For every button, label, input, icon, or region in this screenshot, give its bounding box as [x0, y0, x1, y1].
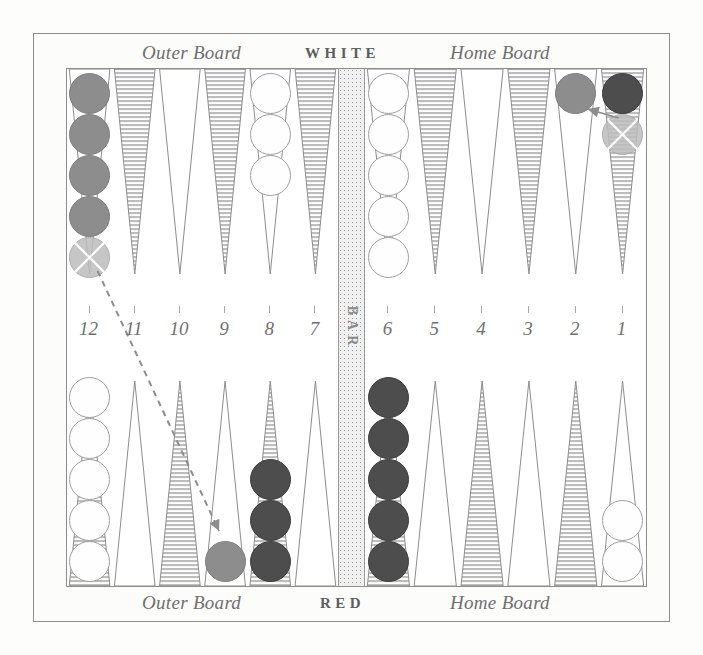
point-tick-5 [434, 306, 435, 313]
point-number-6: 6 [372, 318, 402, 340]
point-numbers-strip: 121110987654321 [66, 318, 647, 344]
point-tick-1 [622, 306, 623, 313]
point-tick-2 [575, 306, 576, 313]
point-number-9: 9 [209, 318, 239, 340]
point-tick-7 [314, 306, 315, 313]
point-tick-8 [269, 306, 270, 313]
top-player-label-white: WHITE [305, 45, 380, 62]
point-number-12: 12 [74, 318, 104, 340]
point-number-11: 11 [119, 318, 149, 340]
point-tick-4 [481, 306, 482, 313]
bottom-outer-board-label: Outer Board [142, 592, 241, 614]
top-home-board-label: Home Board [450, 42, 550, 64]
point-tick-6 [387, 306, 388, 313]
point-tick-9 [224, 306, 225, 313]
backgammon-board-figure: Outer Board WHITE Home Board Outer Board… [0, 0, 703, 655]
point-number-4: 4 [466, 318, 496, 340]
point-number-10: 10 [164, 318, 194, 340]
top-outer-board-label: Outer Board [142, 42, 241, 64]
point-number-5: 5 [419, 318, 449, 340]
point-number-2: 2 [560, 318, 590, 340]
point-number-1: 1 [607, 318, 637, 340]
bottom-home-board-label: Home Board [450, 592, 550, 614]
bottom-player-label-red: RED [320, 595, 365, 612]
point-number-8: 8 [254, 318, 284, 340]
point-tick-3 [528, 306, 529, 313]
point-tick-11 [134, 306, 135, 313]
point-tick-10 [179, 306, 180, 313]
point-number-3: 3 [513, 318, 543, 340]
point-tick-12 [89, 306, 90, 313]
point-number-7: 7 [299, 318, 329, 340]
